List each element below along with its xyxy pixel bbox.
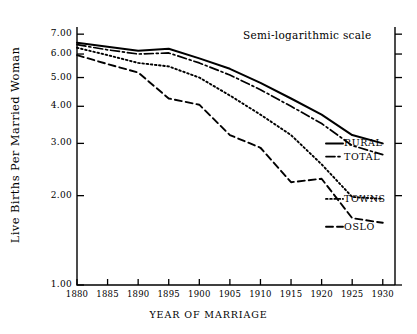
- y-tick-label: 2.00: [26, 190, 72, 200]
- series-label-rural: RURAL: [344, 137, 382, 148]
- series-label-oslo: OSLO: [344, 221, 375, 232]
- y-tick-label: 7.00: [26, 28, 72, 38]
- y-tick-label: 4.00: [26, 100, 72, 110]
- x-tick-label: 1895: [152, 289, 186, 299]
- x-tick-label: 1920: [305, 289, 339, 299]
- x-tick-label: 1905: [213, 289, 247, 299]
- series-line-total: [77, 45, 383, 155]
- series-line-towns: [77, 48, 383, 199]
- x-tick-label: 1930: [366, 289, 400, 299]
- x-tick-label: 1890: [121, 289, 155, 299]
- legend-line-samples: [326, 143, 343, 226]
- data-series-group: [77, 43, 383, 223]
- x-tick-label: 1880: [60, 289, 94, 299]
- y-tick-label: 6.00: [26, 48, 72, 58]
- x-tick-label: 1925: [335, 289, 369, 299]
- chart-figure: Live Births Per Married Woman YEAR OF MA…: [0, 0, 417, 334]
- x-tick-label: 1910: [243, 289, 277, 299]
- series-label-total: TOTAL: [344, 151, 380, 162]
- y-tick-label: 5.00: [26, 72, 72, 82]
- series-label-towns: TOWNS: [344, 193, 386, 204]
- y-tick-label: 3.00: [26, 137, 72, 147]
- x-tick-label: 1900: [182, 289, 216, 299]
- series-line-rural: [77, 43, 383, 144]
- scale-annotation: Semi-logarithmic scale: [243, 29, 372, 41]
- x-tick-label: 1885: [91, 289, 125, 299]
- x-tick-label: 1915: [274, 289, 308, 299]
- series-line-oslo: [77, 55, 383, 223]
- y-tick-label: 1.00: [26, 279, 72, 289]
